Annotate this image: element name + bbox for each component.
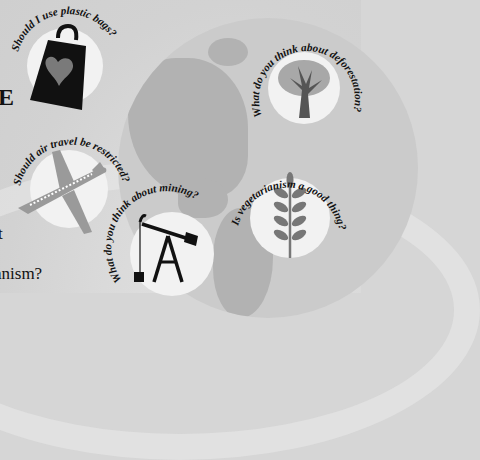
svg-text:Is vegetarianism a good thing?: Is vegetarianism a good thing?: [228, 178, 349, 232]
